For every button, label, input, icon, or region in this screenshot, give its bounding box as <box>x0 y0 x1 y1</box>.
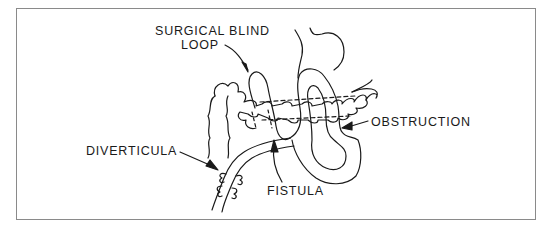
label-obstruction: OBSTRUCTION <box>371 115 471 129</box>
label-surgical-blind-loop: SURGICAL BLIND <box>155 24 270 38</box>
blind-loop-shape <box>249 72 290 140</box>
label-loop: LOOP <box>181 38 219 52</box>
label-diverticula: DIVERTICULA <box>86 144 177 158</box>
diverticula-bowel-shape <box>212 138 294 212</box>
stomach-shape <box>295 28 344 78</box>
label-fistula: FISTULA <box>267 184 324 198</box>
